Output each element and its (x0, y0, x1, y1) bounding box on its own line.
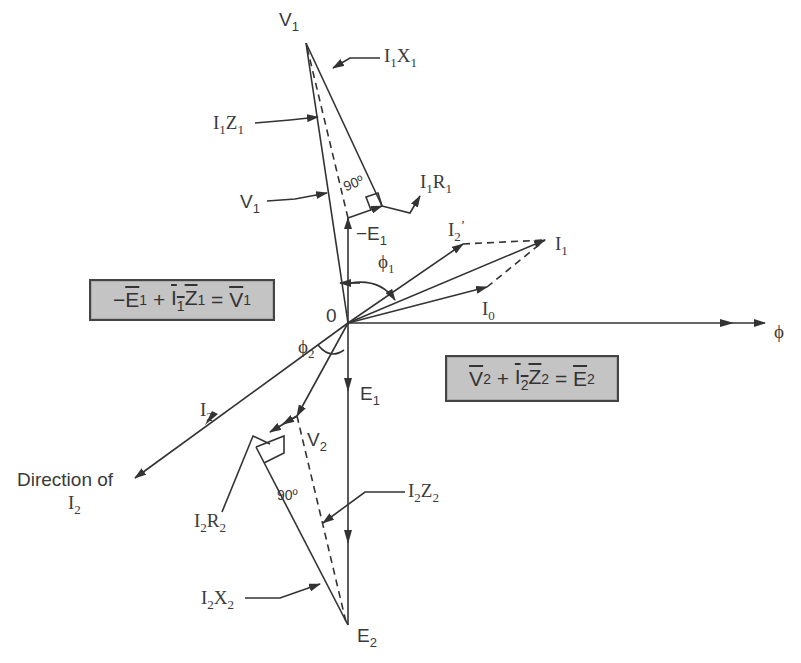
I2prime-vector (348, 244, 463, 323)
label-direction-I2: I2 (68, 493, 81, 516)
label-I1R1: I1R1 (420, 172, 452, 195)
label-I1X1: I1X1 (384, 46, 417, 69)
label-I1Z1: I1Z1 (213, 113, 244, 136)
phasor-diagram (0, 0, 801, 663)
label-V1-top: V1 (279, 10, 299, 33)
primary-equation-box: −E1 + I1Z1 = V1 (89, 279, 275, 321)
label-E1: E1 (360, 384, 380, 407)
label-I1: I1 (555, 234, 568, 257)
label-flux: ϕ (774, 322, 784, 341)
label-I2R2: I2R2 (194, 511, 226, 534)
secondary-equation-box: V2 + I2Z2 = E2 (445, 355, 619, 402)
label-V1-side: V1 (240, 192, 260, 215)
label-I2Z2: I2Z2 (408, 481, 439, 504)
label-I2-prime: I2’ (448, 218, 465, 243)
label-90deg-bottom: 90º (277, 488, 298, 502)
I0-vector (348, 287, 487, 323)
label-origin: 0 (326, 306, 337, 325)
label-I2: I2 (200, 400, 213, 423)
label-direction-of: Direction of (17, 470, 113, 489)
label-V2: V2 (307, 430, 327, 453)
I1Z1-dashed (306, 43, 348, 218)
label-phi2: ϕ2 (298, 337, 315, 360)
I1R1-vector (348, 206, 382, 218)
label-minus-E1: −E1 (356, 224, 387, 247)
I2-vector (135, 323, 348, 478)
label-phi1: ϕ1 (378, 252, 395, 275)
label-I0: I0 (482, 299, 495, 322)
label-I2X2: I2X2 (201, 588, 234, 611)
label-E2: E2 (357, 626, 377, 649)
